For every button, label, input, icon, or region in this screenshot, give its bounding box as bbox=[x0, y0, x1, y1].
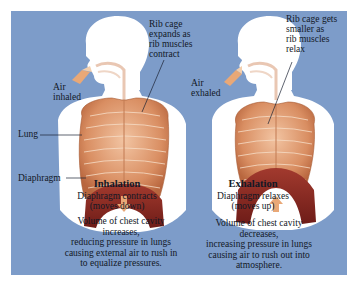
label-line: (moves down) bbox=[64, 201, 170, 211]
inhalation-description: Volume of chest cavity increases, reduci… bbox=[56, 216, 186, 269]
label-line: smaller as bbox=[286, 24, 337, 34]
label-line: Diaphragm relaxes bbox=[200, 191, 306, 201]
rib-smaller-label: Rib cage gets smaller as rib muscles rel… bbox=[286, 14, 337, 54]
desc-line: increasing pressure in lungs bbox=[196, 239, 322, 250]
label-line: (moves up) bbox=[200, 201, 306, 211]
exhalation-diaphragm-state: Diaphragm relaxes (moves up) bbox=[200, 191, 306, 211]
air-exhaled-arrow bbox=[224, 70, 242, 86]
label-line: Rib cage gets bbox=[286, 14, 337, 24]
inhalation-diaphragm-state: Diaphragm contracts (moves down) bbox=[64, 191, 170, 211]
label-line: Rib cage bbox=[149, 19, 193, 29]
air-exhaled-label: Air exhaled bbox=[191, 78, 221, 98]
air-inhaled-label: Air inhaled bbox=[53, 82, 81, 102]
exhalation-description: Volume of chest cavity decreases, increa… bbox=[196, 218, 322, 271]
exhalation-title: Exhalation bbox=[218, 179, 288, 189]
desc-line: decreases, bbox=[196, 229, 322, 240]
label-line: rib muscles bbox=[149, 39, 193, 49]
label-line: Air bbox=[191, 78, 221, 88]
label-line: Diaphragm contracts bbox=[64, 191, 170, 201]
desc-line: causing air to rush out into bbox=[196, 250, 322, 261]
desc-line: increases, bbox=[56, 227, 186, 238]
inhalation-title: Inhalation bbox=[82, 179, 152, 189]
desc-line: to equalize pressures. bbox=[56, 258, 186, 269]
lung-label: Lung bbox=[18, 129, 38, 139]
label-line: contract bbox=[149, 49, 193, 59]
desc-line: atmosphere. bbox=[196, 260, 322, 271]
label-line: exhaled bbox=[191, 88, 221, 98]
label-line: inhaled bbox=[53, 92, 81, 102]
label-line: expands as bbox=[149, 29, 193, 39]
desc-line: causing external air to rush in bbox=[56, 248, 186, 259]
rib-expands-label: Rib cage expands as rib muscles contract bbox=[149, 19, 193, 59]
label-line: Air bbox=[53, 82, 81, 92]
diaphragm-label: Diaphragm bbox=[18, 173, 61, 183]
desc-line: reducing pressure in lungs bbox=[56, 237, 186, 248]
desc-line: Volume of chest cavity bbox=[196, 218, 322, 229]
desc-line: Volume of chest cavity bbox=[56, 216, 186, 227]
label-line: rib muscles bbox=[286, 34, 337, 44]
head-silhouette bbox=[86, 16, 149, 90]
label-line: relax bbox=[286, 44, 337, 54]
